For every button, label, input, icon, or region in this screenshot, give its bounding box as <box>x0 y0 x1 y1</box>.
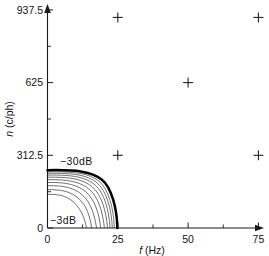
plus-marker <box>253 150 263 160</box>
y-axis-title: n (c/ph) <box>3 101 15 137</box>
y-tick-labels: 937.5 625 312.5 0 <box>17 4 43 234</box>
x-tick-label: 0 <box>45 233 51 245</box>
y-axis-arrowhead <box>44 4 51 13</box>
plus-marker <box>113 150 123 160</box>
x-axis-title: f (Hz) <box>139 244 165 256</box>
x-axis-ticks <box>48 223 259 229</box>
marker-group <box>113 12 264 160</box>
x-tick-label: 50 <box>182 233 194 245</box>
plus-marker <box>253 12 263 22</box>
y-tick-label: 0 <box>37 222 43 234</box>
contour-plot-figure: 937.5 625 312.5 0 0 25 50 75 f (Hz) n (c… <box>0 0 269 256</box>
x-axis-arrowhead <box>255 225 264 232</box>
plot-canvas: 937.5 625 312.5 0 0 25 50 75 f (Hz) n (c… <box>0 0 269 256</box>
contour-label-outer: −30dB <box>60 155 93 167</box>
contour-label-inner: −3dB <box>50 214 76 226</box>
y-tick-label: 937.5 <box>17 4 43 16</box>
x-tick-label: 75 <box>253 233 265 245</box>
x-axis-title-unit: (Hz) <box>145 244 165 256</box>
plus-marker <box>183 78 193 88</box>
y-axis-title-unit: (c/ph) <box>3 101 15 128</box>
y-axis-ticks <box>48 10 54 228</box>
plus-marker <box>113 12 123 22</box>
x-tick-label: 25 <box>112 233 124 245</box>
y-tick-label: 625 <box>25 76 43 88</box>
y-tick-label: 312.5 <box>17 149 43 161</box>
